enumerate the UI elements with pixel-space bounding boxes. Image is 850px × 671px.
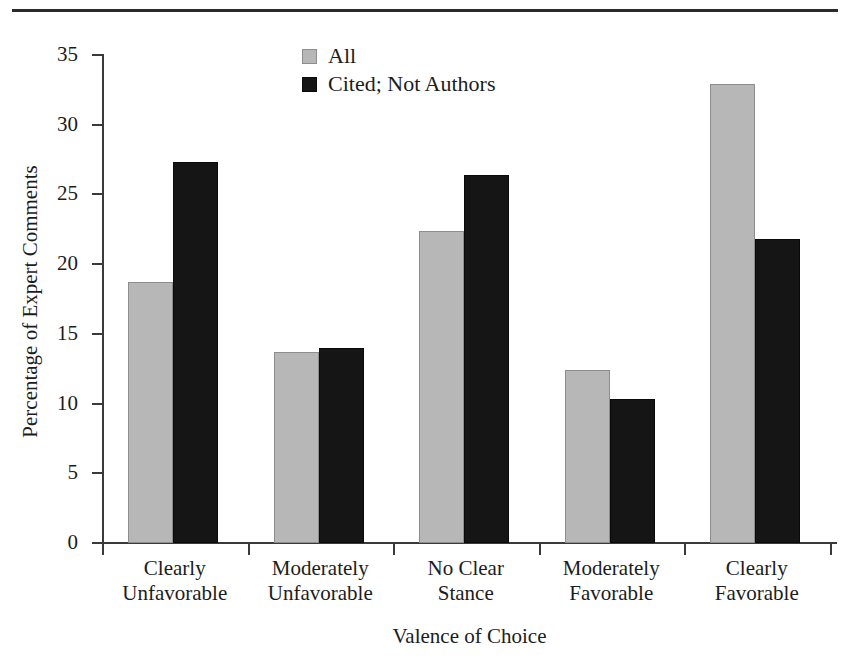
y-tick-label-0: 0 <box>24 532 78 553</box>
legend-label-all: All <box>328 44 356 68</box>
x-category-label-3: ModeratelyFavorable <box>529 556 695 606</box>
bar-cited-not-authors-4 <box>755 239 800 543</box>
y-tick-30 <box>92 124 103 126</box>
x-category-label-line: Stance <box>383 581 549 606</box>
x-tick-5 <box>830 543 832 555</box>
chart-legend: All Cited; Not Authors <box>302 42 495 98</box>
bar-chart-figure: 05101520253035 Percentage of Expert Comm… <box>0 0 850 671</box>
x-category-label-line: Unfavorable <box>238 581 404 606</box>
x-category-label-4: ClearlyFavorable <box>674 556 840 606</box>
x-category-label-line: Clearly <box>674 556 840 581</box>
x-tick-1 <box>248 543 250 555</box>
legend-label-cited-not-authors: Cited; Not Authors <box>328 72 495 96</box>
x-tick-4 <box>684 543 686 555</box>
x-category-label-line: Moderately <box>529 556 695 581</box>
y-tick-25 <box>92 193 103 195</box>
x-tick-0 <box>102 543 104 555</box>
x-category-label-1: ModeratelyUnfavorable <box>238 556 404 606</box>
bar-cited-not-authors-3 <box>610 399 655 543</box>
y-axis-title: Percentage of Expert Comments <box>19 137 42 467</box>
bar-all-3 <box>565 370 610 543</box>
legend-item-cited-not-authors: Cited; Not Authors <box>302 70 495 98</box>
y-tick-5 <box>92 472 103 474</box>
legend-item-all: All <box>302 42 495 70</box>
x-category-label-line: Clearly <box>92 556 258 581</box>
x-category-label-line: Unfavorable <box>92 581 258 606</box>
y-tick-10 <box>92 403 103 405</box>
gray-square-swatch <box>302 49 317 64</box>
bar-all-2 <box>419 231 464 543</box>
y-tick-15 <box>92 333 103 335</box>
x-tick-3 <box>539 543 541 555</box>
bar-cited-not-authors-0 <box>173 162 218 543</box>
y-axis-line <box>102 54 104 544</box>
x-category-label-line: Favorable <box>674 581 840 606</box>
x-category-label-0: ClearlyUnfavorable <box>92 556 258 606</box>
bar-cited-not-authors-1 <box>319 348 364 543</box>
black-square-swatch <box>302 77 317 92</box>
bar-all-4 <box>710 84 755 543</box>
y-tick-label-35: 35 <box>24 44 78 65</box>
x-category-label-line: No Clear <box>383 556 549 581</box>
x-category-label-line: Favorable <box>529 581 695 606</box>
bar-all-1 <box>274 352 319 543</box>
x-tick-2 <box>393 543 395 555</box>
y-tick-35 <box>92 54 103 56</box>
x-category-label-2: No ClearStance <box>383 556 549 606</box>
y-tick-20 <box>92 263 103 265</box>
x-axis-title: Valence of Choice <box>102 625 837 648</box>
bar-cited-not-authors-2 <box>464 175 509 543</box>
x-category-label-line: Moderately <box>238 556 404 581</box>
bar-all-0 <box>128 282 173 543</box>
y-tick-label-30: 30 <box>24 114 78 135</box>
